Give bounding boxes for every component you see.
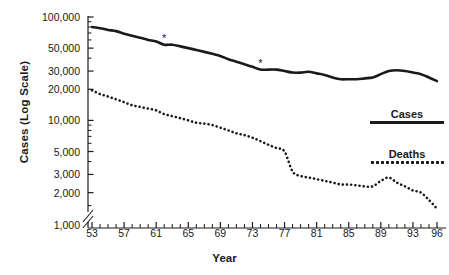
x-tick-label: 85 [334, 227, 364, 239]
legend-label-cases: Cases [370, 108, 444, 120]
x-tick-label: 65 [173, 227, 203, 239]
legend-swatch-cases [370, 121, 444, 124]
x-tick-label: 77 [270, 227, 300, 239]
x-tick-label: 53 [77, 227, 107, 239]
x-tick-label: 73 [237, 227, 267, 239]
x-tick-label: 89 [366, 227, 396, 239]
chart-container: Cases (Log Scale) 100,00050,00030,00020,… [0, 0, 449, 275]
annotation-asterisk: * [162, 32, 167, 44]
legend-item-deaths: Deaths [370, 148, 444, 164]
legend-swatch-deaths [370, 161, 444, 164]
annotation-asterisks: ** [162, 32, 263, 69]
x-axis-title: Year [0, 252, 449, 264]
annotation-asterisk: * [258, 57, 263, 69]
x-tick-label: 61 [141, 227, 171, 239]
x-tick-label: 81 [302, 227, 332, 239]
legend-item-cases: Cases [370, 108, 444, 124]
legend-label-deaths: Deaths [370, 148, 444, 160]
x-tick-label: 69 [205, 227, 235, 239]
x-tick-label: 57 [109, 227, 139, 239]
x-tick-label: 96 [422, 227, 449, 239]
series-line-cases [92, 27, 437, 81]
y-axis-ticks [88, 17, 94, 193]
